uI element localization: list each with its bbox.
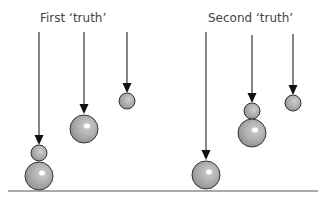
- ball-highlight: [206, 170, 212, 175]
- large-ball: [192, 161, 220, 189]
- second-truth-group: [192, 32, 301, 189]
- large-ball: [70, 115, 98, 143]
- small-ball: [244, 103, 260, 119]
- large-ball: [238, 119, 266, 147]
- arrow-down-icon: [248, 93, 257, 103]
- small-ball: [119, 93, 135, 109]
- small-ball: [31, 145, 47, 161]
- ball-highlight: [39, 171, 45, 176]
- drop-2: [70, 32, 98, 143]
- small-ball: [285, 95, 301, 111]
- drops-layer: [25, 32, 301, 190]
- arrow-down-icon: [289, 85, 298, 95]
- drop-1: [192, 32, 220, 189]
- drop-1: [25, 32, 53, 190]
- arrow-down-icon: [35, 135, 44, 145]
- falling-balls-diagram: First ‘truth’ Second ‘truth’: [0, 0, 324, 206]
- large-ball: [25, 162, 53, 190]
- ball-highlight: [84, 124, 90, 129]
- second-truth-title: Second ‘truth’: [208, 11, 293, 25]
- arrow-down-icon: [80, 104, 89, 114]
- arrow-down-icon: [202, 150, 211, 160]
- drop-2: [238, 35, 266, 147]
- drop-3: [119, 32, 135, 109]
- first-truth-title: First ‘truth’: [40, 11, 106, 25]
- drop-3: [285, 34, 301, 111]
- ball-highlight: [252, 128, 258, 133]
- arrow-down-icon: [123, 83, 132, 93]
- first-truth-group: [25, 32, 135, 190]
